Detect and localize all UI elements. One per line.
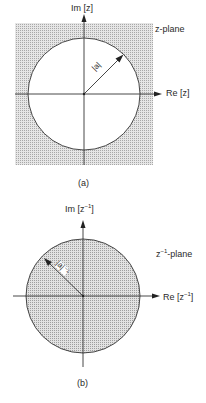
plane-label-a: z-plane xyxy=(155,24,185,34)
im-axis-arrow-icon xyxy=(81,220,86,228)
re-axis-arrow-icon xyxy=(154,92,162,97)
caption-a: (a) xyxy=(78,178,89,188)
im-axis-label-b: Im [z−1] xyxy=(65,203,94,214)
im-axis-arrow-icon xyxy=(82,14,87,22)
z-plane-diagrams xyxy=(0,0,206,403)
re-axis-arrow-icon xyxy=(152,294,160,299)
plane-label-b: z−1-plane xyxy=(156,248,192,259)
re-axis-label-a: Re [z] xyxy=(166,88,190,98)
im-axis-label-a: Im [z] xyxy=(71,3,93,13)
caption-b: (b) xyxy=(77,378,88,388)
re-axis-label-b: Re [z−1] xyxy=(163,291,193,302)
figure-b xyxy=(13,220,160,367)
figure-a xyxy=(15,14,162,165)
